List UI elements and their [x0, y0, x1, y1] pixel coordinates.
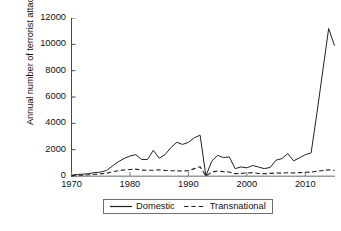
x-tick-label: 1980 [110, 180, 150, 189]
x-tick-label: 1990 [168, 180, 208, 189]
y-tick-label: 6000 [45, 92, 66, 101]
y-tick-label: 12000 [40, 13, 66, 22]
y-tick-label: 8000 [45, 66, 66, 75]
legend-entry-transnational: Transnational [184, 202, 266, 211]
axis-lines [72, 18, 336, 177]
x-tick-label: 2010 [285, 180, 325, 189]
chart-legend: Domestic Transnational [103, 199, 273, 214]
plot-area [71, 18, 335, 177]
series-line-transnational [72, 167, 335, 176]
y-axis-label: Annual number of terrorist attacks [25, 0, 35, 143]
x-tick-label: 1970 [52, 180, 92, 189]
x-axis-ticks [72, 172, 306, 176]
y-axis-ticks [72, 18, 76, 176]
legend-entry-domestic: Domestic [110, 202, 175, 211]
legend-swatch-dashed [184, 203, 206, 210]
x-tick-label: 2000 [227, 180, 267, 189]
plot-svg [71, 18, 335, 177]
legend-label-transnational: Transnational [210, 202, 266, 211]
series-line-domestic [72, 29, 335, 176]
chart-figure: Annual number of terrorist attacks 02000… [0, 0, 341, 231]
y-tick-label: 10000 [40, 39, 66, 48]
y-tick-label: 4000 [45, 118, 66, 127]
legend-label-domestic: Domestic [136, 202, 175, 211]
legend-swatch-solid [110, 203, 132, 210]
y-tick-label: 2000 [45, 145, 66, 154]
